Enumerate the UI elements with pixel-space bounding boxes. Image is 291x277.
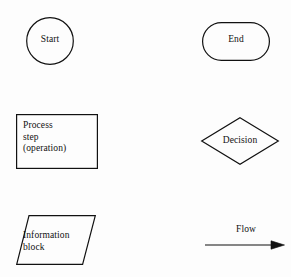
information-block-symbol-label: Information block — [23, 230, 93, 253]
process-symbol-label: Process step (operation) — [23, 120, 99, 155]
flowchart-legend-canvas: Start End Process step (operation) Decis… — [0, 0, 291, 277]
decision-symbol-label: Decision — [201, 135, 279, 147]
end-symbol-label: End — [202, 34, 270, 46]
flow-arrow-label: Flow — [206, 224, 286, 236]
start-symbol-label: Start — [26, 34, 74, 46]
flow-arrow-symbol — [205, 240, 285, 250]
